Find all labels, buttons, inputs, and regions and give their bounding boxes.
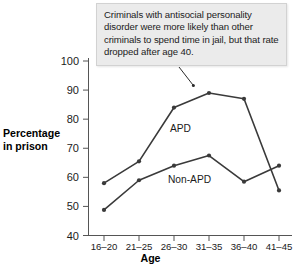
- chart-screenshot: Criminals with antisocial personality di…: [0, 0, 301, 269]
- data-point: [137, 159, 141, 163]
- y-tick-label: 50: [67, 200, 79, 212]
- data-point: [102, 181, 106, 185]
- y-tick-label: 100: [61, 55, 79, 67]
- x-tick-label: 31–35: [196, 241, 223, 252]
- data-series-group: [102, 91, 281, 212]
- data-point: [207, 153, 211, 157]
- data-point: [242, 180, 246, 184]
- x-tick-label: 36–40: [231, 241, 258, 252]
- x-tick-label: 21–25: [126, 241, 153, 252]
- series-inline-labels: APDNon-APD: [168, 123, 211, 185]
- data-point: [277, 164, 281, 168]
- line-chart-plot: 405060708090100 16–2021–2526–3031–3536–4…: [0, 0, 301, 269]
- x-axis-tick-labels: 16–2021–2526–3031–3536–4041–45: [91, 241, 293, 252]
- x-tick-label: 16–20: [91, 241, 118, 252]
- x-tick-label: 41–45: [266, 241, 293, 252]
- annotation-pointer-line: [179, 67, 193, 85]
- y-axis: 405060708090100: [61, 55, 89, 242]
- y-tick-label: 90: [67, 84, 79, 96]
- x-axis: 16–2021–2526–3031–3536–4041–45: [89, 236, 293, 253]
- y-axis-tick-labels: 405060708090100: [61, 55, 79, 242]
- data-point: [242, 97, 246, 101]
- data-point: [172, 105, 176, 109]
- y-axis-ticks: [83, 61, 89, 236]
- series-label-non-apd: Non-APD: [168, 174, 211, 185]
- y-tick-label: 60: [67, 171, 79, 183]
- data-point: [102, 208, 106, 212]
- annotation-pointer-tip: [192, 84, 195, 87]
- y-tick-label: 80: [67, 113, 79, 125]
- data-point: [172, 164, 176, 168]
- data-point: [207, 91, 211, 95]
- series-label-apd: APD: [170, 123, 191, 134]
- y-tick-label: 40: [67, 230, 79, 242]
- x-tick-label: 26–30: [161, 241, 188, 252]
- data-point: [137, 178, 141, 182]
- y-tick-label: 70: [67, 142, 79, 154]
- data-point: [277, 188, 281, 192]
- annotation-pointer: [179, 67, 195, 87]
